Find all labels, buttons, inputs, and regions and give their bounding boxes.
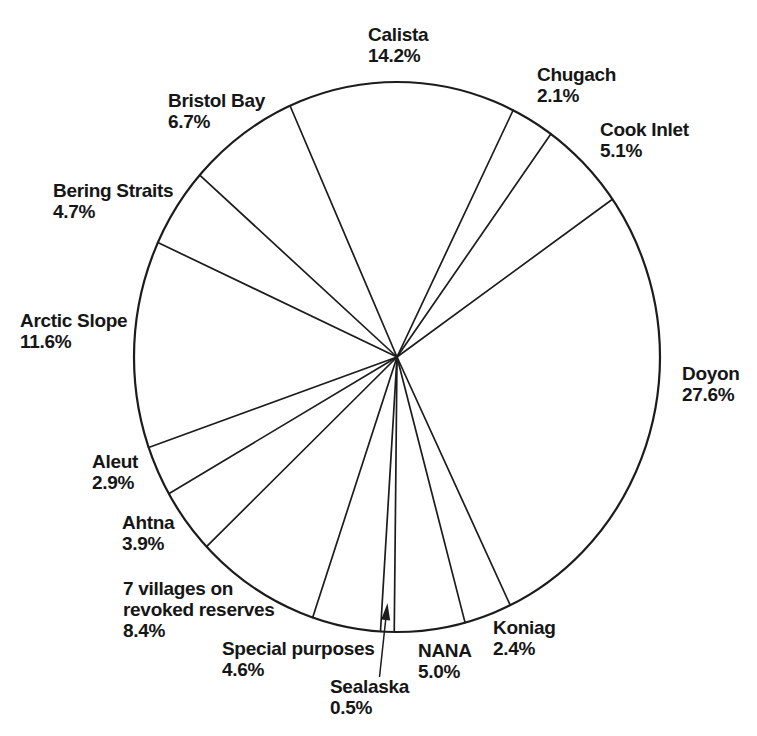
slice-label-nana: NANA5.0%	[418, 640, 472, 682]
slice-label-line: Cook Inlet	[600, 119, 689, 140]
slice-label-line: 8.4%	[123, 620, 275, 641]
slice-label-aleut: Aleut2.9%	[92, 451, 138, 493]
slice-boundary-calista	[290, 106, 397, 357]
slice-label-bering-straits: Bering Straits4.7%	[53, 180, 173, 222]
slice-label-line: 27.6%	[682, 384, 740, 405]
slice-label-line: Ahtna	[122, 512, 174, 533]
slice-boundary-ahtna	[207, 357, 397, 547]
slice-boundary-cook-inlet	[397, 134, 551, 357]
slice-label-line: Aleut	[92, 451, 138, 472]
slice-label-line: 2.9%	[92, 472, 138, 493]
slice-label-cook-inlet: Cook Inlet5.1%	[600, 119, 689, 161]
slice-boundary-aleut	[169, 357, 397, 494]
slice-label-line: 6.7%	[168, 111, 265, 132]
slice-boundary-doyon	[397, 199, 612, 357]
slice-label-calista: Calista14.2%	[368, 24, 428, 66]
pie-svg	[0, 0, 757, 736]
slice-label-line: Doyon	[682, 363, 740, 384]
slice-label-line: Arctic Slope	[20, 310, 127, 331]
slice-label-line: 0.5%	[330, 697, 409, 718]
slice-label-koniag: Koniag2.4%	[493, 617, 556, 659]
slice-label-sealaska: Sealaska0.5%	[330, 676, 409, 718]
slice-boundary-chugach	[397, 110, 513, 357]
slice-boundary-bristol-bay	[200, 175, 397, 357]
slice-label-chugach: Chugach2.1%	[537, 64, 616, 106]
slice-boundary-bering-straits	[158, 243, 397, 357]
slice-label-line: Chugach	[537, 64, 616, 85]
slice-boundary-arctic-slope	[149, 357, 397, 447]
slice-boundary-nana	[397, 357, 465, 623]
pie-chart: Calista14.2%Chugach2.1%Cook Inlet5.1%Doy…	[0, 0, 757, 736]
slice-boundary-koniag	[397, 357, 510, 605]
slice-label-line: Bering Straits	[53, 180, 173, 201]
slice-label-line: 5.1%	[600, 140, 689, 161]
slice-label-special-purposes: Special purposes4.6%	[222, 638, 375, 680]
slice-label-line: 2.4%	[493, 638, 556, 659]
slice-label-line: 2.1%	[537, 85, 616, 106]
slice-label-line: Calista	[368, 24, 428, 45]
slice-label-doyon: Doyon27.6%	[682, 363, 740, 405]
slice-label-line: Koniag	[493, 617, 556, 638]
slice-label-line: 3.9%	[122, 533, 174, 554]
slice-label-bristol-bay: Bristol Bay6.7%	[168, 90, 265, 132]
slice-label-seven-villages-on-revoked-reserves: 7 villages onrevoked reserves8.4%	[123, 578, 275, 641]
slice-label-line: 5.0%	[418, 661, 472, 682]
slice-label-line: NANA	[418, 640, 472, 661]
slice-label-line: 14.2%	[368, 45, 428, 66]
slice-label-arctic-slope: Arctic Slope11.6%	[20, 310, 127, 352]
slice-label-line: 11.6%	[20, 331, 127, 352]
slice-label-ahtna: Ahtna3.9%	[122, 512, 174, 554]
slice-label-line: 7 villages on	[123, 578, 275, 599]
slice-label-line: 4.7%	[53, 201, 173, 222]
slice-label-line: revoked reserves	[123, 599, 275, 620]
slice-label-line: Bristol Bay	[168, 90, 265, 111]
slice-label-line: Special purposes	[222, 638, 375, 659]
slice-label-line: 4.6%	[222, 659, 375, 680]
